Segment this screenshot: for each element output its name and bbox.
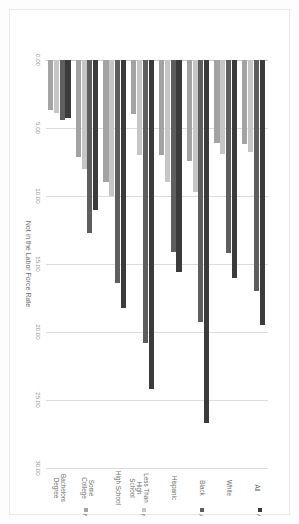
bar [198,60,203,322]
bar [186,60,191,161]
bar-group [73,60,101,468]
bar [103,60,108,182]
legend-item[interactable]: No Incarcerations or Arrests (2013) [82,508,90,516]
legend-item[interactable]: At Least One Incarceration (2013) [256,508,264,516]
value-axis-tick-label: 10.00 [35,188,42,203]
value-axis-tick-label: 5.00 [35,122,42,134]
rotated-figure-wrapper: 0.005.0010.0015.0020.0025.0030.00 Not in… [10,10,291,516]
value-axis-tick-label: 25.00 [35,392,42,407]
value-axis-title: Not in the Labor Force Rate [25,60,32,468]
legend-label: No Incarcerations (2013) [140,514,147,516]
bar [47,60,52,110]
bar [109,60,114,196]
bar [87,60,92,233]
bar [59,60,64,120]
bar [81,60,86,169]
legend-label: At Least One Incarceration (2013) [256,514,263,516]
plot-area [46,60,268,468]
category-axis-label: Hispanic [170,471,177,505]
bar [226,60,231,253]
bar-group [101,60,129,468]
bar [253,60,258,291]
bar-group [184,60,212,468]
bar [242,60,247,144]
bar [220,60,225,154]
bar-group [240,60,268,468]
bar [75,60,80,157]
chart-canvas: 0.005.0010.0015.0020.0025.0030.00 Not in… [9,9,290,515]
bar [53,60,58,113]
category-axis-label: Black [198,471,205,505]
category-axis-label: All [254,471,261,505]
category-axis-label: Less Than High School [129,471,150,505]
legend-item[interactable]: At Least One Arrest (2013) [198,508,206,516]
bar [93,60,98,210]
bar [231,60,236,278]
bar [248,60,253,152]
value-axis-tick-label: 15.00 [35,256,42,271]
legend-swatch [199,508,203,512]
bar [65,60,70,118]
bar [131,60,136,114]
bar [214,60,219,143]
bar-group [157,60,185,468]
bar-group [46,60,74,468]
bar [158,60,163,155]
bar [259,60,264,325]
legend-swatch [83,508,87,512]
gridline [46,468,268,469]
category-axis-label: High School [115,471,122,505]
bar-group [212,60,240,468]
legend-label: No Incarcerations or Arrests (2013) [82,514,89,516]
bar-group [129,60,157,468]
legend-swatch [141,508,145,512]
legend-swatch [257,508,261,512]
chart-page: 0.005.0010.0015.0020.0025.0030.00 Not in… [0,0,299,524]
legend-label: At Least One Arrest (2013) [198,514,205,516]
bar [176,60,181,272]
bar [192,60,197,192]
legend-item[interactable]: No Incarcerations (2013) [140,508,148,516]
bar [148,60,153,389]
bar [170,60,175,252]
value-axis-tick-label: 30.00 [35,460,42,475]
bar [115,60,120,283]
category-axis-label: Bachelors Degree [52,471,66,505]
bar [120,60,125,308]
bar [204,60,209,423]
bar [142,60,147,343]
bar [164,60,169,182]
bar [137,60,142,155]
category-axis-label: White [226,471,233,505]
category-axis-label: Some College [80,471,94,505]
value-axis-tick-label: 20.00 [35,324,42,339]
value-axis-tick-label: 0.00 [35,54,42,66]
chart-figure: 0.005.0010.0015.0020.0025.0030.00 Not in… [20,20,282,506]
